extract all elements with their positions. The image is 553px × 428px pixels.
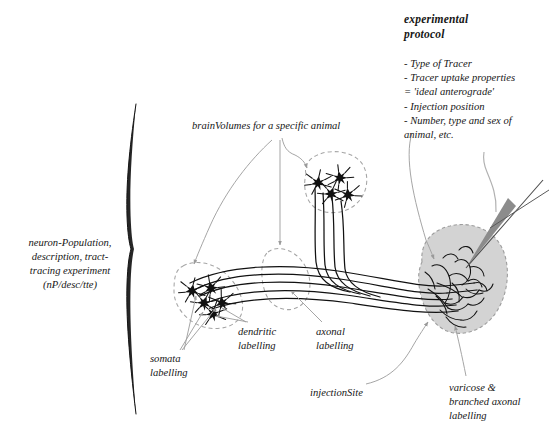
experimental-protocol-list: - Type of Tracer - Tracer uptake propert… <box>404 57 515 142</box>
leader-axonal <box>291 291 322 322</box>
somata-labelling-label: somata labelling <box>150 352 188 380</box>
lower-neuron-cluster <box>177 272 237 329</box>
injection-site-label: injectionSite <box>310 387 363 400</box>
brain-volumes-label: brainVolumes for a specific animal <box>192 120 340 133</box>
leader-brainvolumes-upper <box>282 138 307 168</box>
experimental-protocol-title: experimental protocol <box>404 12 468 42</box>
tract-tracing-figure: experimental protocol - Type of Tracer -… <box>0 0 553 428</box>
brain-volume-middle <box>262 249 310 310</box>
leader-injectionsite <box>366 322 428 384</box>
leader-dendritic-2 <box>216 316 248 322</box>
injection-pipette <box>466 152 549 268</box>
leader-somata-2 <box>182 308 216 350</box>
leader-somata-3 <box>184 296 196 350</box>
neuron-population-label: neuron-Population, description, tract- t… <box>4 236 136 292</box>
leader-brainvolumes-lower <box>194 140 272 264</box>
dendritic-labelling-label: dendritic labelling <box>238 325 276 353</box>
axonal-labelling-label: axonal labelling <box>316 325 354 353</box>
varicose-labelling-label: varicose & branched axonal labelling <box>449 381 521 422</box>
